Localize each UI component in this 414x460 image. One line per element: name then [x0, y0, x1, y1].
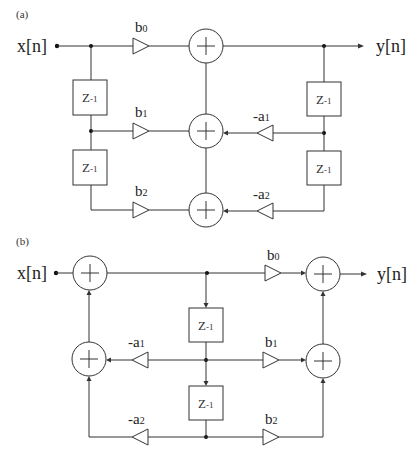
- arrow-icon: [361, 272, 367, 277]
- arrow-icon: [301, 271, 306, 276]
- coef-label: b0: [135, 19, 148, 35]
- panel-a-label: (a): [16, 8, 29, 21]
- coef-label: b0: [267, 247, 280, 263]
- panel-a: (a) x[n] Z-1 Z-1 b0 b1 b2: [16, 8, 406, 227]
- coef-label: b1: [265, 334, 278, 350]
- input-label-b: x[n]: [17, 263, 47, 283]
- arrow-icon: [321, 291, 326, 296]
- arrow-icon: [223, 209, 228, 214]
- gain-b0: [133, 38, 149, 54]
- gain-b2: [133, 202, 149, 218]
- arrow-icon: [106, 358, 111, 363]
- adder: [189, 114, 223, 148]
- output-label-b: y[n]: [377, 264, 407, 284]
- arrow-icon: [321, 378, 326, 383]
- arrow-icon: [223, 131, 228, 136]
- gain-neg-a2: [132, 429, 148, 445]
- coef-label: -a1: [253, 108, 270, 124]
- arrow-icon: [204, 381, 209, 386]
- coef-label: b2: [135, 183, 148, 199]
- coef-label: -a2: [128, 411, 145, 427]
- panel-b-label: (b): [16, 235, 29, 248]
- gain-b0: [265, 265, 281, 281]
- gain-b2: [263, 429, 279, 445]
- arrow-icon: [87, 290, 92, 295]
- gain-neg-a1: [132, 352, 148, 368]
- gain-b1: [133, 123, 149, 139]
- adder: [189, 29, 223, 63]
- filter-diagrams: (a) x[n] Z-1 Z-1 b0 b1 b2: [0, 0, 414, 460]
- arrow-icon: [358, 44, 364, 49]
- panel-b: (b) x[n] Z-1 Z-1: [16, 235, 407, 445]
- gain-neg-a2: [257, 203, 273, 219]
- coef-label: b1: [135, 104, 148, 120]
- arrow-icon: [301, 358, 306, 363]
- output-label-a: y[n]: [376, 36, 406, 56]
- coef-label: -a1: [128, 334, 145, 350]
- coef-label: b2: [265, 411, 278, 427]
- adder: [189, 193, 223, 227]
- adder: [73, 256, 107, 290]
- adder: [306, 344, 340, 378]
- input-label-a: x[n]: [17, 36, 47, 56]
- coef-label: -a2: [253, 186, 270, 202]
- gain-b1: [263, 352, 279, 368]
- gain-neg-a1: [257, 125, 273, 141]
- arrow-icon: [204, 303, 209, 308]
- arrow-icon: [87, 376, 92, 381]
- adder: [306, 257, 340, 291]
- adder: [72, 342, 106, 376]
